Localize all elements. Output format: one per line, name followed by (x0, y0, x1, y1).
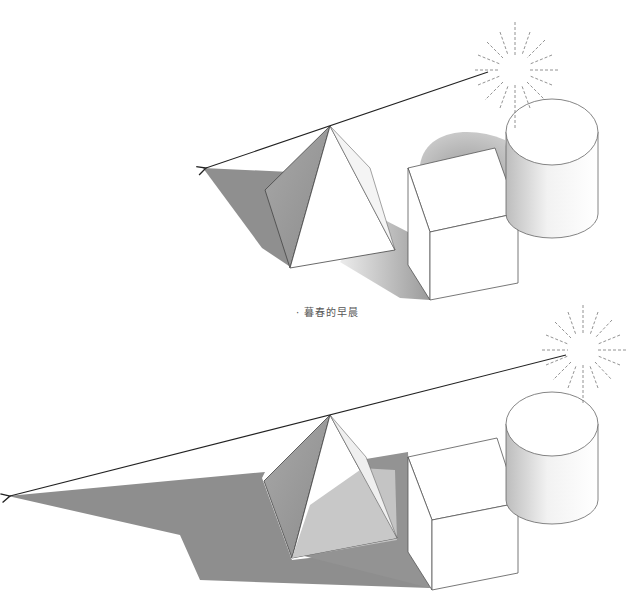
panel-bottom (8, 305, 626, 590)
pyramid-top (265, 126, 395, 268)
cube-bottom (408, 438, 518, 590)
cube-top (408, 148, 518, 300)
cylinder-bottom (506, 392, 598, 524)
pyramid-bottom (264, 415, 397, 558)
panel-top (203, 22, 598, 300)
shadow-diagram (0, 0, 639, 605)
cylinder-cap (506, 99, 598, 165)
cylinder-top (506, 99, 598, 238)
figure-caption: · 暮春的早晨 (296, 304, 359, 319)
sun-icon-bottom (542, 305, 626, 405)
cylinder-cap (506, 392, 598, 456)
